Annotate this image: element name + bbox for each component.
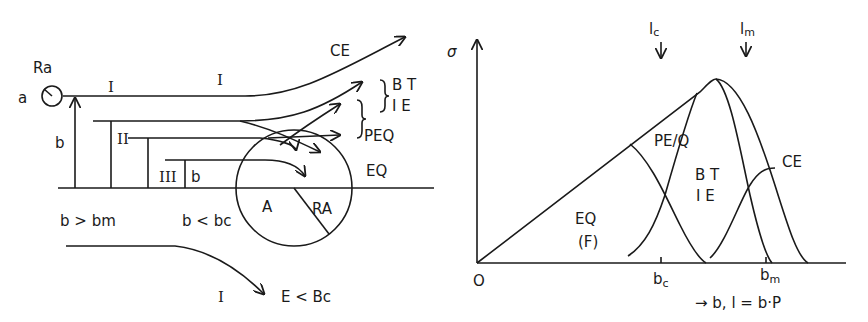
projectile-ion-icon [42,86,62,106]
impact-parameter-label: b [55,134,65,152]
cross-section-chart: σ O bc bm lc lm EQ (F) PE/Q B T I E CE →… [447,20,846,312]
trajectory-III-label: III [159,168,177,186]
bc-tick-label: bc [653,270,669,290]
outcome-CE-label: CE [330,42,350,60]
ion-label: a [18,89,27,107]
y-axis-label: σ [447,43,457,61]
brace-BT-IE [380,80,389,112]
target-radius-label: RA [312,200,333,218]
lm-marker-label: lm [740,20,755,39]
trajectory-III-EQ [165,160,305,176]
outcome-EQ-label: EQ [366,162,387,180]
outcome-BT-label: B T [392,76,417,94]
trajectory-I-label-2: I [217,71,223,89]
region-CE-label: CE [782,153,802,171]
trajectory-PEQ [268,135,340,138]
PEQ-curve [628,93,697,256]
trajectory-I-label-1: I [108,78,114,96]
lower-trajectory-label: I [218,288,224,306]
condition-near-label: b < bc [182,212,231,230]
trajectory-lower [66,246,264,294]
region-F-label: (F) [578,233,598,251]
bm-tick-label: bm [760,266,780,286]
origin-label: O [473,272,485,290]
collision-geometry-diagram: a Ra b I I CE II III b A RA [18,37,434,306]
region-BT-label: B T [695,166,720,184]
small-b-label: b [191,168,201,186]
figure-canvas: a Ra b I I CE II III b A RA [0,0,868,322]
region-IE-label: I E [696,187,715,205]
trajectory-II [128,138,296,150]
x-axis-caption: → b, l = b·P [695,294,781,312]
condition-far-label: b > bm [60,212,116,230]
outcome-IE-label: I E [392,97,411,115]
region-PEQ-label: PE/Q [654,132,689,150]
lower-condition-label: E < Bc [281,288,331,306]
target-label: A [262,198,273,216]
CE-rising-curve [710,168,775,258]
region-EQ-label: EQ [575,210,596,228]
trajectory-II-label: II [117,130,129,148]
outcome-PEQ-label: PEQ [364,127,394,145]
lc-marker-label: lc [649,20,659,39]
ion-radius-label: Ra [33,59,52,77]
EQ-curve [630,144,706,263]
